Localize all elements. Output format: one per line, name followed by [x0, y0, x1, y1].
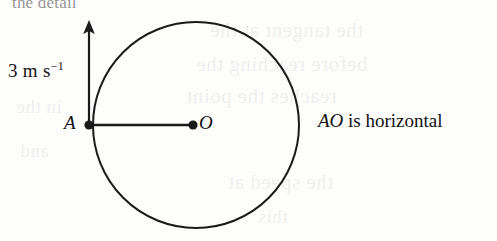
- point-o-dot: [188, 120, 197, 129]
- horizontal-note: AO is horizontal: [318, 110, 443, 132]
- velocity-value: 3 m s: [8, 60, 51, 81]
- horizontal-note-ao: AO: [318, 110, 343, 131]
- figure-canvas: the detail the tangent at the before rea…: [0, 0, 497, 241]
- horizontal-note-rest: is horizontal: [343, 110, 442, 131]
- velocity-exponent: −1: [51, 59, 64, 73]
- point-a-label: A: [64, 112, 76, 134]
- velocity-label: 3 m s−1: [8, 60, 64, 82]
- point-a-dot: [84, 120, 93, 129]
- point-o-label: O: [199, 112, 213, 134]
